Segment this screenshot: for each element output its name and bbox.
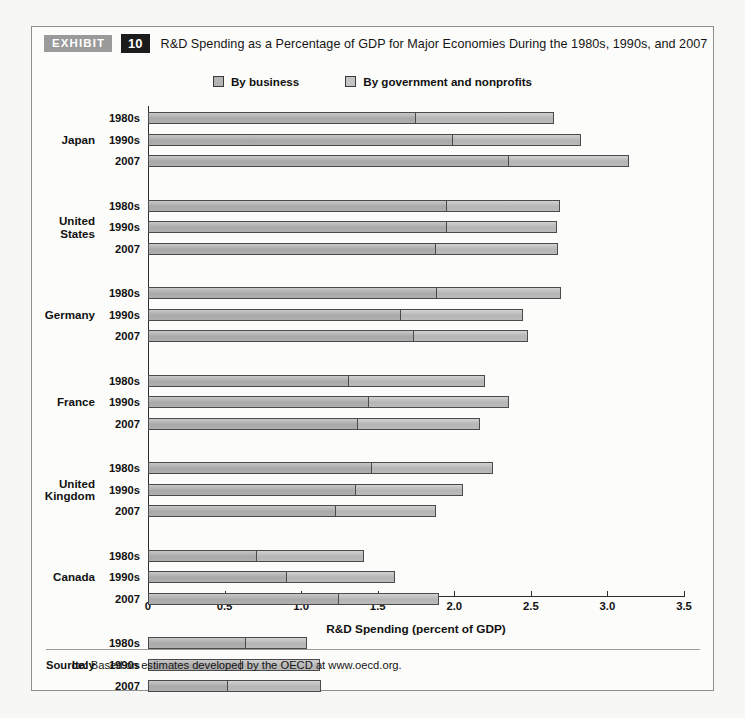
country-label-canada: Canada — [32, 571, 95, 584]
country-label-france: France — [32, 396, 95, 409]
period-label-1980s: 1980s — [32, 637, 140, 649]
bar-segment-business — [148, 396, 369, 408]
bar-canada-2007 — [148, 593, 439, 605]
period-label-1980s: 1980s — [32, 462, 140, 474]
x-axis-title: R&D Spending (percent of GDP) — [148, 622, 684, 636]
bar-segment-business — [148, 375, 349, 387]
bar-segment-government — [245, 637, 307, 649]
bar-segment-government — [446, 200, 560, 212]
bar-segment-government — [338, 593, 439, 605]
bar-germany-1980s — [148, 287, 561, 299]
bar-segment-government — [435, 243, 559, 255]
bar-segment-business — [148, 593, 339, 605]
country-label-united-kingdom: UnitedKingdom — [32, 477, 95, 502]
bar-segment-business — [148, 462, 372, 474]
period-label-2007: 2007 — [32, 418, 140, 430]
bar-segment-business — [148, 484, 356, 496]
source-note: Source: Based on estimates developed by … — [46, 659, 402, 671]
bar-italy-1980s — [148, 637, 307, 649]
bar-segment-government — [357, 418, 481, 430]
bar-segment-government — [452, 134, 582, 146]
period-label-1980s: 1980s — [32, 200, 140, 212]
country-label-united-states: UnitedStates — [32, 215, 95, 240]
bar-japan-1990s — [148, 134, 581, 146]
bar-segment-government — [371, 462, 493, 474]
bar-japan-2007 — [148, 155, 629, 167]
bar-segment-government — [413, 330, 527, 342]
bar-united-kingdom-1990s — [148, 484, 463, 496]
bar-segment-government — [286, 571, 394, 583]
y-axis-line — [148, 106, 149, 596]
bar-segment-government — [508, 155, 628, 167]
bar-segment-business — [148, 200, 447, 212]
period-label-2007: 2007 — [32, 330, 140, 342]
x-axis-tick — [607, 591, 608, 597]
country-label-germany: Germany — [32, 308, 95, 321]
country-label-japan: Japan — [32, 133, 95, 146]
bar-segment-business — [148, 112, 416, 124]
plot-area: R&D Spending (percent of GDP) 00.51.01.5… — [148, 106, 684, 596]
x-axis-tick-label: 2.0 — [446, 600, 462, 612]
bar-segment-government — [415, 112, 554, 124]
bar-germany-1990s — [148, 309, 523, 321]
bar-segment-government — [256, 550, 364, 562]
x-axis-tick-label: 3.0 — [600, 600, 616, 612]
bar-segment-business — [148, 505, 336, 517]
x-axis-tick — [531, 591, 532, 597]
period-label-1980s: 1980s — [32, 550, 140, 562]
period-label-1980s: 1980s — [32, 287, 140, 299]
bar-segment-business — [148, 680, 228, 692]
period-label-1980s: 1980s — [32, 112, 140, 124]
source-label: Source: — [46, 659, 88, 671]
period-label-2007: 2007 — [32, 680, 140, 692]
bar-segment-government — [348, 375, 485, 387]
bar-segment-business — [148, 330, 414, 342]
bar-canada-1980s — [148, 550, 364, 562]
period-label-2007: 2007 — [32, 243, 140, 255]
bar-segment-business — [148, 221, 447, 233]
bar-segment-government — [355, 484, 463, 496]
bar-segment-business — [148, 418, 358, 430]
period-label-2007: 2007 — [32, 593, 140, 605]
period-label-1980s: 1980s — [32, 375, 140, 387]
bar-segment-business — [148, 243, 436, 255]
x-axis-tick-label: 3.5 — [676, 600, 692, 612]
bar-united-kingdom-2007 — [148, 505, 436, 517]
period-label-2007: 2007 — [32, 505, 140, 517]
chart-area: R&D Spending (percent of GDP) 00.51.01.5… — [32, 27, 715, 692]
bar-segment-business — [148, 134, 453, 146]
bar-segment-business — [148, 155, 509, 167]
bar-united-states-2007 — [148, 243, 558, 255]
bar-germany-2007 — [148, 330, 528, 342]
bar-segment-government — [335, 505, 436, 517]
period-label-2007: 2007 — [32, 155, 140, 167]
bar-segment-business — [148, 550, 257, 562]
bar-segment-business — [148, 637, 246, 649]
bar-italy-2007 — [148, 680, 321, 692]
exhibit-frame: EXHIBIT 10 R&D Spending as a Percentage … — [31, 26, 714, 691]
bar-segment-business — [148, 571, 287, 583]
x-axis-tick — [684, 591, 685, 597]
bar-france-2007 — [148, 418, 480, 430]
source-divider — [46, 649, 700, 650]
bar-segment-government — [436, 287, 561, 299]
page-root: EXHIBIT 10 R&D Spending as a Percentage … — [0, 0, 745, 718]
bar-segment-government — [446, 221, 557, 233]
bar-segment-government — [227, 680, 321, 692]
source-body: Based on estimates developed by the OECD… — [88, 659, 402, 671]
bar-segment-government — [400, 309, 524, 321]
bar-japan-1980s — [148, 112, 554, 124]
bar-united-states-1980s — [148, 200, 560, 212]
bar-canada-1990s — [148, 571, 395, 583]
bar-france-1980s — [148, 375, 485, 387]
bar-segment-government — [368, 396, 510, 408]
bar-segment-business — [148, 309, 401, 321]
bar-united-states-1990s — [148, 221, 557, 233]
x-axis-tick-label: 2.5 — [523, 600, 539, 612]
x-axis-tick — [454, 591, 455, 597]
bar-segment-business — [148, 287, 437, 299]
bar-united-kingdom-1980s — [148, 462, 493, 474]
bar-france-1990s — [148, 396, 509, 408]
